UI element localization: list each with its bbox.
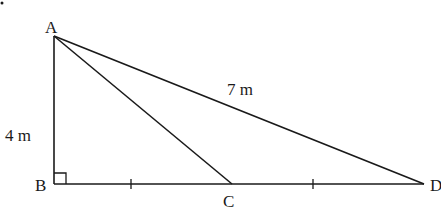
measurement-ab: 4 m [5,126,31,145]
segment-ac [54,36,232,184]
point-label-c: C [223,192,234,211]
point-label-a: A [45,18,58,37]
measurement-ad: 7 m [227,80,253,99]
point-label-d: D [430,176,441,195]
triangle-diagram: A B C D 4 m 7 m [0,0,441,216]
corner-dot [1,2,4,5]
point-label-b: B [35,176,46,195]
segment-ad [54,36,424,184]
right-angle-marker [54,173,66,184]
